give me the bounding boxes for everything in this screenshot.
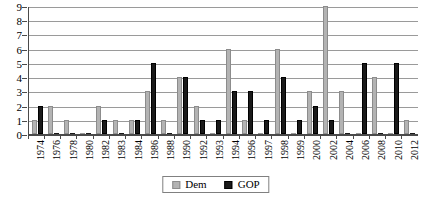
bar-gop — [313, 106, 318, 134]
chart-legend: DemGOP — [162, 176, 269, 193]
bar-gop — [248, 91, 253, 134]
bar-dem — [32, 120, 37, 134]
bar-group — [78, 7, 94, 134]
legend-item-gop[interactable]: GOP — [225, 179, 260, 190]
plot-area — [28, 7, 418, 135]
x-axis-label-cell: 2006 — [353, 139, 369, 175]
legend-swatch-gop-icon — [225, 181, 233, 189]
x-axis-label-cell: 1996 — [239, 139, 255, 175]
bar-group — [110, 7, 126, 134]
bar-group — [337, 7, 353, 134]
bar-group — [61, 7, 77, 134]
bar-gop — [297, 120, 302, 134]
bar-dem — [64, 120, 69, 134]
bar-dem — [307, 91, 312, 134]
bar-dem — [275, 49, 280, 134]
bar-group — [353, 7, 369, 134]
y-axis-tick — [22, 50, 27, 51]
x-axis-label-cell: 2012 — [402, 139, 418, 175]
y-axis-tick — [22, 35, 27, 36]
y-axis-tick — [22, 7, 27, 8]
bar-group — [29, 7, 45, 134]
bar-dem — [339, 91, 344, 134]
bar-group — [321, 7, 337, 134]
bar-chart: 0123456789 19741976197819801982198319841… — [0, 0, 432, 205]
bar-gop — [86, 133, 91, 134]
bar-groups — [29, 7, 418, 134]
bar-gop — [394, 63, 399, 134]
x-axis-label-cell: 2010 — [386, 139, 402, 175]
bar-gop — [410, 133, 415, 134]
bar-dem — [177, 77, 182, 134]
bar-gop — [378, 133, 383, 134]
x-axis-label-cell: 1974 — [28, 139, 44, 175]
bar-group — [142, 7, 158, 134]
bar-group — [207, 7, 223, 134]
y-axis-tick — [22, 135, 27, 136]
bar-dem — [48, 106, 53, 134]
legend-swatch-dem-icon — [172, 181, 180, 189]
bar-group — [126, 7, 142, 134]
x-axis-label-cell: 2002 — [321, 139, 337, 175]
x-axis-label-cell: 1980 — [77, 139, 93, 175]
bar-group — [256, 7, 272, 134]
bar-group — [223, 7, 239, 134]
x-axis-label-cell: 1990 — [174, 139, 190, 175]
bar-gop — [38, 106, 43, 134]
x-axis-label-cell: 1982 — [93, 139, 109, 175]
bar-dem — [210, 133, 215, 134]
bar-gop — [232, 91, 237, 134]
bar-gop — [167, 133, 172, 134]
bar-gop — [329, 120, 334, 134]
bar-gop — [264, 120, 269, 134]
bar-gop — [54, 133, 59, 134]
bar-group — [191, 7, 207, 134]
bar-gop — [70, 133, 75, 134]
y-axis-tick — [22, 92, 27, 93]
bar-group — [385, 7, 401, 134]
bar-dem — [194, 106, 199, 134]
bar-group — [94, 7, 110, 134]
bar-dem — [291, 133, 296, 134]
bar-group — [45, 7, 61, 134]
bar-dem — [226, 49, 231, 134]
bar-group — [369, 7, 385, 134]
bar-group — [240, 7, 256, 134]
y-axis-tick — [22, 107, 27, 108]
bar-gop — [345, 133, 350, 134]
bar-group — [304, 7, 320, 134]
legend-label: GOP — [238, 179, 260, 190]
bar-group — [402, 7, 418, 134]
bar-dem — [242, 120, 247, 134]
x-axis-label-cell: 1983 — [109, 139, 125, 175]
x-axis-label-cell: 1998 — [272, 139, 288, 175]
bar-group — [175, 7, 191, 134]
x-axis-label-cell: 2000 — [304, 139, 320, 175]
x-axis-label-cell: 1978 — [61, 139, 77, 175]
x-axis-label-cell: 1997 — [256, 139, 272, 175]
bar-gop — [102, 120, 107, 134]
y-axis-tick — [22, 64, 27, 65]
bar-gop — [200, 120, 205, 134]
bar-dem — [258, 133, 263, 134]
bar-gop — [216, 120, 221, 134]
legend-item-dem[interactable]: Dem — [172, 179, 206, 190]
y-axis-tick — [22, 78, 27, 79]
bar-gop — [281, 77, 286, 134]
bar-dem — [113, 120, 118, 134]
bar-gop — [183, 77, 188, 134]
bar-dem — [372, 77, 377, 134]
bar-dem — [129, 120, 134, 134]
bar-dem — [96, 106, 101, 134]
x-axis-label-cell: 1976 — [44, 139, 60, 175]
bar-dem — [145, 91, 150, 134]
y-axis: 0123456789 — [0, 0, 26, 135]
y-axis-tick — [22, 121, 27, 122]
x-axis-labels: 1974197619781980198219831984198619881990… — [28, 139, 418, 175]
x-axis-label-cell: 2008 — [369, 139, 385, 175]
bar-dem — [388, 133, 393, 134]
bar-dem — [161, 120, 166, 134]
x-axis-label-cell: 1986 — [142, 139, 158, 175]
bar-gop — [119, 133, 124, 134]
bar-gop — [362, 63, 367, 134]
